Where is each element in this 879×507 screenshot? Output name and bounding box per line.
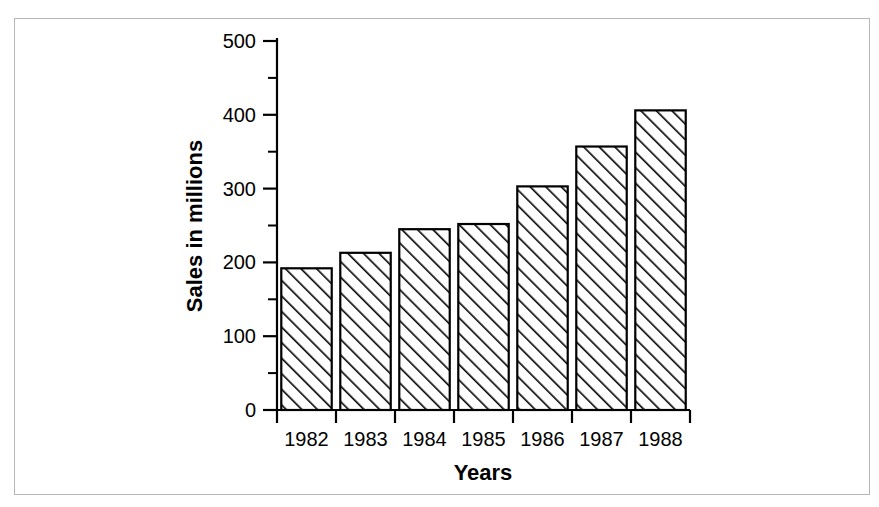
bar-1982 xyxy=(281,268,331,410)
x-tick-label-1982: 1982 xyxy=(284,428,329,450)
y-tick-label-100: 100 xyxy=(223,325,256,347)
x-axis-ticks: 1982198319841985198619871988 xyxy=(277,410,690,450)
bar-1988 xyxy=(635,110,685,410)
x-axis-label: Years xyxy=(454,460,513,485)
x-tick-label-1988: 1988 xyxy=(638,428,683,450)
x-tick-label-1986: 1986 xyxy=(520,428,565,450)
chart-canvas: 0100200300400500 19821983198419851986198… xyxy=(0,0,879,507)
y-axis-label: Sales in millions xyxy=(182,140,207,312)
x-tick-label-1987: 1987 xyxy=(579,428,624,450)
bar-1984 xyxy=(399,229,449,410)
y-tick-label-200: 200 xyxy=(223,251,256,273)
y-tick-label-0: 0 xyxy=(245,399,256,421)
y-tick-label-500: 500 xyxy=(223,30,256,52)
bar-1986 xyxy=(517,186,567,410)
x-tick-label-1985: 1985 xyxy=(461,428,506,450)
bar-chart: 0100200300400500 19821983198419851986198… xyxy=(0,0,879,507)
y-tick-label-300: 300 xyxy=(223,178,256,200)
x-tick-label-1983: 1983 xyxy=(343,428,388,450)
bar-1983 xyxy=(340,253,390,410)
bar-1987 xyxy=(576,147,626,410)
bar-1985 xyxy=(458,224,508,410)
bars-group xyxy=(281,110,685,410)
y-tick-label-400: 400 xyxy=(223,104,256,126)
y-axis-ticks: 0100200300400500 xyxy=(223,30,277,421)
x-tick-label-1984: 1984 xyxy=(402,428,447,450)
